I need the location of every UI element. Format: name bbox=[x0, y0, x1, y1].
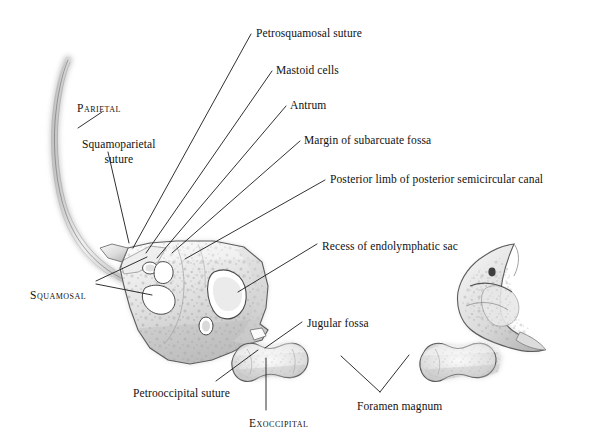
leader-mastoid bbox=[146, 71, 272, 253]
label-antrum: Antrum bbox=[290, 98, 326, 113]
label-petrosquamosal: Petrosquamosal suture bbox=[256, 26, 362, 41]
label-mastoid-cells: Mastoid cells bbox=[276, 63, 339, 78]
leader-posterior-limb bbox=[185, 180, 325, 259]
label-foramen-magnum: Foramen magnum bbox=[357, 399, 442, 414]
exoccipital-bone-right bbox=[418, 338, 502, 388]
leader-antrum bbox=[157, 106, 286, 258]
label-squamoparietal: Squamoparietalsuture bbox=[82, 137, 156, 167]
leader-foramen-a bbox=[341, 356, 380, 392]
anatomical-plate: ParietalSquamoparietalsutureSquamosalPet… bbox=[0, 0, 592, 448]
label-endolymphatic: Recess of endolymphatic sac bbox=[322, 239, 458, 254]
label-jugular-fossa: Jugular fossa bbox=[307, 316, 369, 331]
temporal-bone-right-view bbox=[452, 240, 552, 356]
label-exoccipital: Exoccipital bbox=[249, 416, 308, 431]
label-petrooccipital: Petrooccipital suture bbox=[133, 386, 230, 401]
label-subarcuate: Margin of subarcuate fossa bbox=[304, 133, 431, 148]
leader-foramen-b bbox=[380, 355, 409, 392]
label-parietal: Parietal bbox=[77, 101, 121, 116]
label-squamosal: Squamosal bbox=[30, 288, 86, 303]
leader-subarcuate bbox=[172, 141, 300, 253]
label-posterior-limb: Posterior limb of posterior semicircular… bbox=[330, 172, 543, 187]
exoccipital-bone-left bbox=[230, 338, 314, 388]
